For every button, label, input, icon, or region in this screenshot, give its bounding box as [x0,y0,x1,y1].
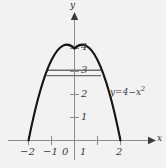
y-tick-label-4: 4 [81,42,87,52]
x-tick-label--2: −2 [20,147,35,157]
x-tick-label--1: −1 [43,147,58,157]
y-tick-label-3: 3 [81,65,87,75]
x-tick-label-1: 1 [80,147,86,157]
y-tick-label-1: 1 [81,112,87,122]
curve-equation-exponent: 2 [141,85,145,93]
curve-equation-equals: = [115,87,123,97]
y-axis-label: y [70,1,75,10]
x-axis-arrowhead [148,137,156,144]
x-tick-label-0: 0 [62,147,68,157]
y-axis-arrowhead [71,12,78,20]
curve-equation-label: y=4−x2 [110,86,145,97]
x-tick-label-2: 2 [116,147,122,157]
parabola-figure: y x −2 −1 0 1 2 1 2 3 4 y=4−x2 [0,0,166,168]
curve-equation-minus: − [128,87,136,97]
y-tick-label-2: 2 [81,89,87,99]
x-axis-label: x [157,134,162,143]
plot-canvas [0,0,166,168]
